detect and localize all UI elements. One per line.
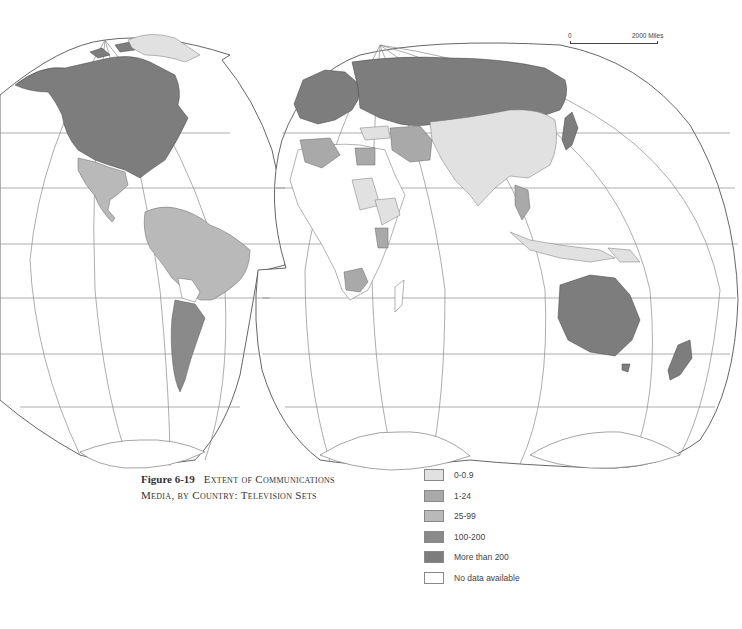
legend-swatch: [424, 469, 444, 481]
legend-swatch: [424, 531, 444, 543]
legend-swatch: [424, 551, 444, 563]
figure-caption: Figure 6-19 Extent of Communications Med…: [141, 471, 381, 503]
scale-bar: 0 2000 Miles: [568, 32, 728, 48]
legend-label: 0-0.9: [454, 469, 473, 481]
legend-label: More than 200: [454, 551, 509, 563]
scale-start-label: 0: [568, 32, 572, 39]
region-egypt: [355, 148, 375, 165]
scale-end-label: 2000 Miles: [632, 32, 663, 39]
legend-swatch: [424, 510, 444, 522]
legend-label: 100-200: [454, 531, 485, 543]
figure-title-line1: Extent of Communications: [204, 473, 335, 485]
legend-label: No data available: [454, 572, 520, 584]
world-map: [0, 0, 742, 629]
figure-title-line2: Media, by Country: Television Sets: [141, 487, 381, 503]
scale-line: [570, 41, 658, 44]
legend-label: 1-24: [454, 490, 471, 502]
region-turkey: [360, 126, 390, 140]
legend-label: 25-99: [454, 510, 476, 522]
figure-number: Figure 6-19: [141, 473, 195, 485]
legend-swatch: [424, 490, 444, 502]
legend-swatch: [424, 572, 444, 584]
